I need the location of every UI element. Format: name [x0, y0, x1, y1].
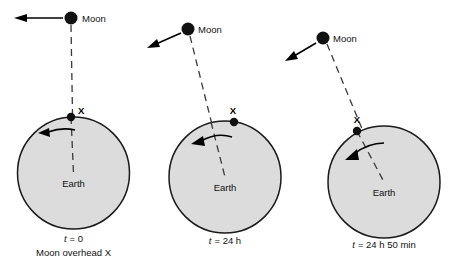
panel-1-caption-t-value: = 0 — [70, 233, 83, 244]
moon-circle-2 — [182, 23, 195, 36]
panel-3-caption-t-value: = 24 h 50 min — [358, 239, 416, 250]
surface-point-x-2 — [230, 118, 238, 126]
panel-2-caption-t-symbol: t — [209, 235, 212, 246]
surface-point-x-1 — [67, 113, 75, 121]
moon-circle-1 — [65, 12, 78, 25]
panel-3: X Moon Earth t= 24 h 50 min — [285, 32, 440, 251]
moon-earth-rotation-figure: X Moon Earth t= 0 Moon overhead X X — [0, 0, 469, 266]
earth-label-1: Earth — [62, 178, 85, 189]
earth-label-2: Earth — [214, 182, 237, 193]
surface-point-x-label-1: X — [78, 105, 85, 116]
panel-3-caption-time: t= 24 h 50 min — [352, 239, 415, 250]
panel-1: X Moon Earth t= 0 Moon overhead X — [14, 12, 130, 259]
moon-velocity-arrowhead-1 — [14, 14, 27, 22]
panel-2-caption-t-value: = 24 h — [214, 235, 241, 246]
surface-point-x-label-2: X — [230, 105, 237, 116]
moon-label-3: Moon — [333, 33, 357, 44]
earth-label-3: Earth — [373, 187, 396, 198]
moon-velocity-arrow-2 — [156, 33, 181, 44]
moon-velocity-arrow-3 — [294, 43, 316, 56]
panel-2-caption-time: t= 24 h — [209, 235, 241, 246]
moon-circle-3 — [317, 32, 330, 45]
moon-label-2: Moon — [198, 24, 222, 35]
moon-label-1: Moon — [82, 13, 106, 24]
panel-2: X Moon Earth t= 24 h — [147, 23, 281, 247]
surface-point-x-label-3: X — [354, 114, 361, 125]
moon-velocity-arrowhead-2 — [147, 39, 160, 48]
panel-1-caption-description: Moon overhead X — [36, 247, 112, 258]
panel-1-caption-time: t= 0 — [64, 233, 83, 244]
figure-canvas: X Moon Earth t= 0 Moon overhead X X — [0, 0, 469, 266]
panel-1-caption-t-symbol: t — [64, 233, 67, 244]
surface-point-x-3 — [353, 127, 361, 135]
moon-velocity-arrowhead-3 — [285, 51, 298, 61]
panel-3-caption-t-symbol: t — [352, 239, 355, 250]
